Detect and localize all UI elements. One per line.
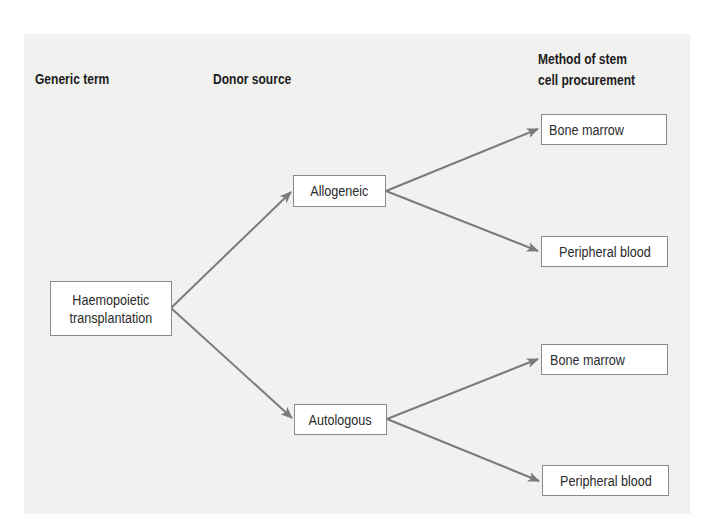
node-allogeneic-bone-marrow: Bone marrow xyxy=(541,114,667,145)
node-allogeneic-label: Allogeneic xyxy=(310,182,368,200)
node-allogeneic: Allogeneic xyxy=(293,175,386,207)
node-auto-peripheral-blood-label: Peripheral blood xyxy=(560,472,652,490)
node-haemopoietic-transplantation: Haemopoietic transplantation xyxy=(50,281,172,336)
node-autologous-label: Autologous xyxy=(309,411,372,429)
arrow-allogeneic-to-peripheral-blood xyxy=(386,191,538,251)
node-autologous-bone-marrow: Bone marrow xyxy=(541,344,668,375)
arrow-root-to-autologous xyxy=(171,308,292,418)
arrow-autologous-to-peripheral-blood xyxy=(387,419,539,481)
node-root-line2: transplantation xyxy=(70,309,153,327)
node-allogeneic-peripheral-blood: Peripheral blood xyxy=(541,236,668,267)
node-autologous-peripheral-blood: Peripheral blood xyxy=(542,465,669,496)
arrow-root-to-allogeneic xyxy=(171,192,291,308)
node-auto-bone-marrow-label: Bone marrow xyxy=(550,351,625,369)
node-allo-peripheral-blood-label: Peripheral blood xyxy=(559,243,651,261)
arrow-allogeneic-to-bone-marrow xyxy=(386,129,538,191)
arrow-autologous-to-bone-marrow xyxy=(387,359,538,419)
node-allo-bone-marrow-label: Bone marrow xyxy=(549,121,624,139)
node-autologous: Autologous xyxy=(294,404,387,435)
node-root-line1: Haemopoietic xyxy=(72,291,149,309)
